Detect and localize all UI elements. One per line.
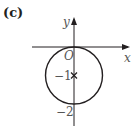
part-label: (c) [3,5,23,20]
y-axis-label: y [62,15,70,29]
circle-diagram: (c) y x O −1 −2 [0,0,140,135]
tick-label-minus-1: −1 [54,69,72,83]
x-axis-label: x [124,51,131,65]
tick-label-minus-2: −2 [56,105,74,119]
origin-label: O [64,49,74,63]
